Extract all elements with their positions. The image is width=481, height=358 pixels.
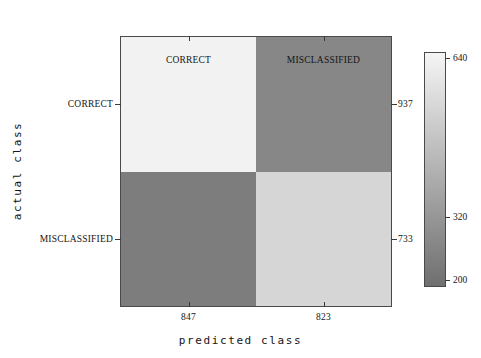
colorbar-label-640: 640	[453, 53, 467, 63]
row-total-937: 937	[398, 99, 413, 109]
y-axis-title-container: actual class	[4, 0, 30, 358]
colorbar-label-200: 200	[453, 275, 467, 285]
right-tick-1	[391, 239, 397, 240]
row-label-misclassified: MISCLASSIFIED	[40, 234, 113, 244]
column-total-847: 847	[181, 312, 196, 322]
x-axis-title: predicted class	[0, 334, 481, 347]
row-label-correct: CORRECT	[68, 99, 113, 109]
colorbar: 640 320 200	[424, 52, 446, 287]
column-label-misclassified: MISCLASSIFIED	[287, 55, 360, 65]
top-tick-1	[324, 36, 325, 41]
y-axis-title: actual class	[11, 122, 24, 221]
colorbar-tick-640	[445, 58, 450, 59]
left-tick-0	[115, 104, 121, 105]
heatmap-plot-area: CORRECT MISCLASSIFIED CORRECT MISCLASSIF…	[120, 36, 392, 307]
row-total-733: 733	[398, 234, 413, 244]
bottom-tick-1	[324, 302, 325, 307]
matrix-cell-misclassified-correct	[121, 172, 256, 307]
right-tick-0	[391, 104, 397, 105]
confusion-matrix-figure: actual class CORRECT MISCLASSIFIED CORRE…	[0, 0, 481, 358]
top-tick-0	[189, 36, 190, 41]
column-total-823: 823	[316, 312, 331, 322]
left-tick-1	[115, 239, 121, 240]
colorbar-tick-200	[445, 280, 450, 281]
colorbar-gradient	[425, 53, 445, 286]
colorbar-tick-320	[445, 217, 450, 218]
matrix-cell-misclassified-misclassified	[256, 172, 391, 307]
confusion-matrix-grid	[121, 37, 391, 306]
column-label-correct: CORRECT	[166, 55, 211, 65]
colorbar-label-320: 320	[453, 212, 467, 222]
bottom-tick-0	[189, 302, 190, 307]
